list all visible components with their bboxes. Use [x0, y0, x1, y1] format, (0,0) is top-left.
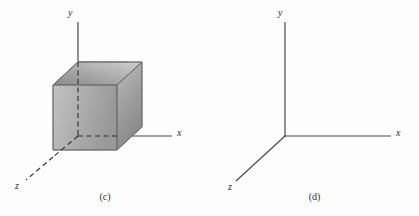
panel-c: y x z (c) [0, 0, 210, 216]
figure-container: y x z (c) y x z (d) [0, 0, 419, 216]
axes-only-drawing [210, 0, 419, 216]
panel-d-caption: (d) [210, 192, 419, 202]
panel-d: y x z (d) [210, 0, 419, 216]
origin-point [284, 135, 286, 137]
z-axis-line [236, 136, 285, 181]
cube-left-face [53, 85, 117, 150]
z-axis-group [26, 136, 78, 180]
z-axis-line-visible [26, 157, 53, 180]
panel-c-caption: (c) [0, 192, 210, 202]
x-axis-label: x [396, 128, 400, 138]
z-axis-label: z [228, 182, 232, 192]
axes-with-cube-drawing [0, 0, 210, 216]
z-axis-label: z [15, 181, 19, 191]
y-axis-label: y [278, 8, 282, 18]
origin-point [77, 135, 79, 137]
y-axis-label: y [68, 8, 72, 18]
x-axis-label: x [177, 128, 181, 138]
